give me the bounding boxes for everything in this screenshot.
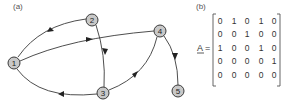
- cell-r1-c5: 0: [272, 16, 277, 26]
- cell-r2-c3: 1: [245, 29, 250, 39]
- cell-r5-c4: 0: [259, 70, 264, 80]
- cell-r2-c1: 0: [218, 29, 223, 39]
- cell-r3-c3: 0: [245, 43, 250, 53]
- right-bracket: [277, 14, 280, 86]
- node-5-label: 5: [176, 87, 181, 96]
- edge-3-4: [109, 37, 157, 90]
- matrix-equals: =: [205, 43, 210, 53]
- cell-r4-c5: 1: [272, 56, 277, 66]
- cell-r1-c4: 1: [259, 16, 264, 26]
- cell-r5-c5: 0: [272, 70, 277, 80]
- arrowhead-3-1-icon: [58, 91, 64, 97]
- panel-label-a: (a): [13, 2, 23, 11]
- adjacency-matrix: A = 0 1 0 1 0 0 0 1 0 0 1 0 0 1 0 0 0 0 …: [197, 14, 280, 86]
- cell-r4-c1: 0: [218, 56, 223, 66]
- cell-r1-c3: 0: [245, 16, 250, 26]
- directed-graph: 1 2 3 4 5: [8, 14, 184, 99]
- cell-r2-c4: 0: [259, 29, 264, 39]
- left-bracket: [213, 14, 216, 86]
- edge-3-1: [17, 69, 97, 95]
- node-1-label: 1: [12, 59, 17, 68]
- cell-r4-c3: 0: [245, 56, 250, 66]
- edge-4-5: [164, 36, 178, 85]
- node-3-label: 3: [101, 89, 106, 98]
- cell-r1-c2: 1: [232, 16, 237, 26]
- arrowhead-4-5-icon: [172, 53, 178, 60]
- panel-label-b: (b): [196, 2, 206, 11]
- node-4-label: 4: [158, 27, 163, 36]
- cell-r3-c1: 1: [218, 43, 223, 53]
- cell-r4-c4: 0: [259, 56, 264, 66]
- cell-r1-c1: 0: [218, 16, 223, 26]
- edge-1-2: [18, 19, 86, 57]
- matrix-name: A: [197, 43, 203, 53]
- node-3: 3: [97, 87, 109, 99]
- adjacency-figure: (a) (b) 1 2 3: [0, 0, 291, 105]
- node-1: 1: [8, 57, 20, 69]
- cell-r3-c4: 1: [259, 43, 264, 53]
- cell-r5-c2: 0: [232, 70, 237, 80]
- node-2-label: 2: [90, 16, 95, 25]
- cell-r2-c5: 0: [272, 29, 277, 39]
- node-5: 5: [172, 85, 184, 97]
- cell-r3-c5: 0: [272, 43, 277, 53]
- node-4: 4: [154, 25, 166, 37]
- cell-r5-c3: 0: [245, 70, 250, 80]
- cell-r3-c2: 0: [232, 43, 237, 53]
- cell-r5-c1: 0: [218, 70, 223, 80]
- cell-r4-c2: 0: [232, 56, 237, 66]
- cell-r2-c2: 0: [232, 29, 237, 39]
- edge-2-3: [96, 25, 104, 87]
- node-2: 2: [86, 14, 98, 26]
